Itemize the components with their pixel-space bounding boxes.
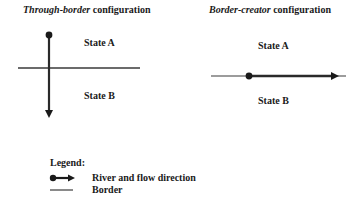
river-source-dot <box>246 73 253 80</box>
state-b-label: State B <box>84 90 115 101</box>
state-a-label: State A <box>84 37 115 48</box>
legend-heading: Legend: <box>50 157 85 168</box>
title-italic: Border-creator <box>209 4 271 15</box>
river-source-dot <box>46 32 53 39</box>
state-b-label: State B <box>258 95 289 106</box>
title-rest: configuration <box>90 4 150 15</box>
river-arrowhead <box>331 72 339 80</box>
legend-river-label: River and flow direction <box>92 172 196 183</box>
border-creator-diagram <box>211 72 346 80</box>
through-border-diagram <box>18 32 140 118</box>
river-arrowhead <box>45 110 53 118</box>
legend-river-icon <box>50 175 75 182</box>
legend-border-label: Border <box>92 184 123 195</box>
state-a-label: State A <box>258 40 289 51</box>
title-italic: Through-border <box>23 4 90 15</box>
title-rest: configuration <box>271 4 331 15</box>
border-creator-title: Border-creator configuration <box>209 4 331 15</box>
through-border-title: Through-border configuration <box>23 4 151 15</box>
